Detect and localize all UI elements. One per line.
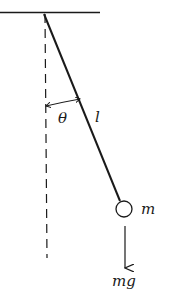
mass-label: m — [141, 200, 155, 218]
pendulum-bob — [116, 201, 132, 217]
length-label: l — [95, 108, 100, 126]
pendulum-diagram: θ l m mg — [0, 0, 169, 305]
angle-label: θ — [58, 109, 67, 127]
pendulum-string — [44, 14, 120, 201]
force-label: mg — [112, 272, 136, 290]
vertical-reference-line — [45, 14, 47, 258]
angle-arc — [46, 99, 80, 106]
